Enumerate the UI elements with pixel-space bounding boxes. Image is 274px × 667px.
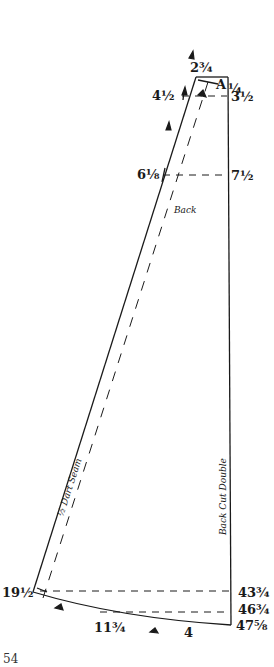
page-number: 54: [3, 652, 19, 666]
piece-label-back: Back: [173, 205, 196, 215]
dart-seam-line: [43, 82, 208, 598]
arrow-icon: [166, 122, 171, 130]
direction-arrows: [55, 51, 206, 633]
measure-top: 2¾: [190, 60, 213, 75]
measure-right-3: 43¾: [238, 585, 270, 600]
corner-label-a: A: [215, 77, 227, 92]
tick-marks: [37, 91, 184, 592]
arrow-icon: [55, 604, 63, 610]
measure-left-2: 6⅛: [137, 167, 160, 182]
measure-bottom-mid: 11¾: [94, 620, 126, 635]
arrow-icon: [189, 51, 194, 59]
arrow-icon: [182, 87, 187, 95]
fold-label: Back Cut Double: [218, 458, 228, 536]
pattern-outline: [33, 77, 231, 625]
pattern-diagram: 2¾ A ¼ 4½ 3½ 6⅛ 7½ 19½ 43¾ 46¾ 47⅝ 11¾ 4…: [0, 0, 274, 667]
measure-right-4: 46¾: [238, 602, 270, 617]
measure-bottom-center: 4: [184, 625, 193, 640]
measure-bottom-right: 47⅝: [236, 618, 268, 633]
dart-seam-label: ½ Dart Seam: [55, 457, 83, 517]
guide-lines: [40, 96, 230, 612]
measure-right-2: 7½: [231, 168, 254, 183]
arrow-icon: [150, 628, 158, 633]
measure-left-1: 4½: [152, 88, 175, 103]
measure-bottom-left: 19½: [2, 585, 34, 600]
measure-right-1: 3½: [231, 89, 254, 104]
